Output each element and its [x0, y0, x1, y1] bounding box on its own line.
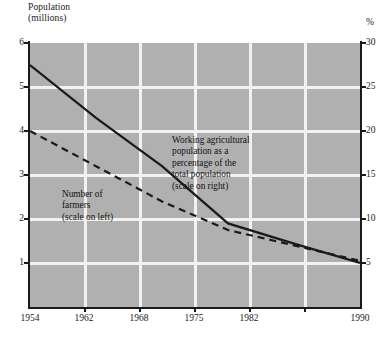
y-axis-right-title: %: [366, 17, 374, 28]
y-axis-right-tick-label: 30: [366, 37, 376, 47]
x-axis-tickmark: [84, 308, 86, 312]
x-axis-tick-label: 1982: [227, 313, 271, 323]
y-axis-left-tickmark: [24, 174, 29, 176]
y-axis-left-tickmark: [24, 130, 29, 132]
y-axis-left-tick-label: 6: [4, 37, 24, 47]
y-axis-right-tick-label: 5: [366, 257, 371, 267]
y-axis-left-tick-label: 5: [4, 81, 24, 91]
x-axis-tick-label: 1990: [338, 313, 382, 323]
annotation-number-of-farmers: Number of farmers (scale on left): [62, 189, 113, 223]
x-axis-tick-label: 1962: [62, 313, 106, 323]
y-axis-left-tick-label: 2: [4, 213, 24, 223]
y-axis-left-tickmark: [24, 42, 29, 44]
x-axis-tickmark: [194, 308, 196, 312]
y-axis-left-tickmark: [24, 262, 29, 264]
annotation-agricultural-percentage: Working agricultural population as a per…: [172, 135, 249, 192]
x-axis-tick-label: 1975: [172, 313, 216, 323]
x-axis-tickmark: [249, 308, 251, 312]
x-axis-tick-label: 1954: [8, 313, 52, 323]
y-axis-left-title: Population (millions): [28, 2, 70, 24]
chart-figure: Population (millions) % 6 5 4 3 2 1 30 2…: [0, 0, 388, 343]
y-axis-left-tick-label: 3: [4, 169, 24, 179]
y-axis-right-tick-label: 20: [366, 125, 376, 135]
y-axis-right-tick-label: 25: [366, 81, 376, 91]
x-axis-tickmark: [139, 308, 141, 312]
y-axis-left-tickmark: [24, 86, 29, 88]
y-axis-right-tick-label: 15: [366, 169, 376, 179]
y-axis-left-tickmark: [24, 218, 29, 220]
y-axis-left-tick-label: 1: [4, 257, 24, 267]
x-axis-tick-label: 1968: [117, 313, 161, 323]
y-axis-left-tick-label: 4: [4, 125, 24, 135]
x-axis-tickmark: [304, 308, 306, 312]
y-axis-right-tick-label: 10: [366, 213, 376, 223]
